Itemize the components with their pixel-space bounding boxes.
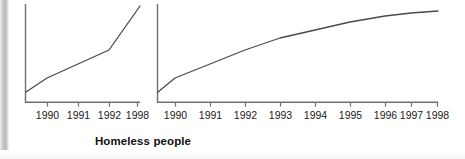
x-tick-label-1: 1991 (67, 109, 91, 121)
x-tick-label-2: 1992 (98, 109, 122, 121)
x-tick-label-0: 1990 (36, 109, 60, 121)
x-tick-label-6: 1996 (374, 109, 398, 121)
x-tick-label-2: 1992 (234, 109, 258, 121)
chart-full-axis: 1990 1991 1992 1993 1994 1995 1996 1997 … (146, 0, 451, 134)
chart-compressed-axis: 1990 1991 1992 1998 (14, 0, 150, 134)
x-tick-label-7: 1997 (400, 109, 424, 121)
data-line-homeless (158, 11, 438, 92)
x-tick-label-4: 1994 (304, 109, 328, 121)
x-tick-label-3: 1993 (269, 109, 293, 121)
x-tick-label-8: 1998 (426, 109, 450, 121)
x-tick-label-5: 1995 (339, 109, 363, 121)
data-line-homeless (26, 6, 140, 92)
page-bottom-artifact (0, 150, 465, 159)
figure-page: 1990 1991 1992 1998 (0, 0, 465, 159)
x-tick-label-0: 1990 (164, 109, 188, 121)
chart-compressed-svg: 1990 1991 1992 1998 (14, 0, 150, 134)
x-tick-label-1: 1991 (199, 109, 223, 121)
figure-caption: Homeless people (0, 135, 286, 147)
chart-full-svg: 1990 1991 1992 1993 1994 1995 1996 1997 … (146, 0, 451, 134)
